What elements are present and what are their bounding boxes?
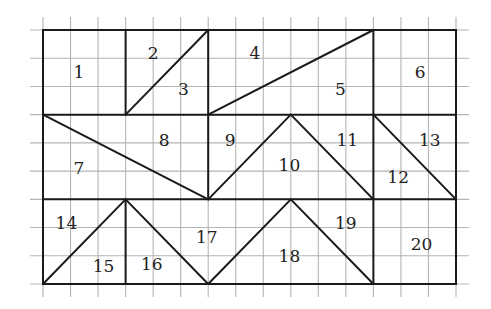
piece-label-19: 19 <box>335 213 357 233</box>
piece-label-4: 4 <box>250 43 261 63</box>
piece-edge <box>373 115 456 200</box>
piece-label-12: 12 <box>387 167 409 187</box>
piece-label-13: 13 <box>419 130 441 150</box>
piece-label-7: 7 <box>73 158 84 178</box>
piece-label-14: 14 <box>56 213 78 233</box>
piece-edge <box>291 199 374 284</box>
piece-label-10: 10 <box>279 155 301 175</box>
piece-label-9: 9 <box>225 130 236 150</box>
piece-label-16: 16 <box>141 254 163 274</box>
piece-label-18: 18 <box>279 246 301 266</box>
piece-label-6: 6 <box>415 62 426 82</box>
piece-label-8: 8 <box>159 130 170 150</box>
piece-edge <box>126 30 209 115</box>
piece-label-5: 5 <box>335 79 346 99</box>
piece-edge <box>291 115 374 200</box>
piece-label-2: 2 <box>148 43 159 63</box>
piece-label-1: 1 <box>73 62 84 82</box>
piece-label-20: 20 <box>411 234 433 254</box>
piece-label-3: 3 <box>178 79 189 99</box>
piece-label-11: 11 <box>336 130 358 150</box>
grid-figure: 1234567891011121314151617181920 <box>0 0 491 309</box>
piece-label-15: 15 <box>93 256 115 276</box>
piece-label-17: 17 <box>196 227 218 247</box>
piece-outlines <box>43 30 456 284</box>
piece-edge <box>208 199 291 284</box>
